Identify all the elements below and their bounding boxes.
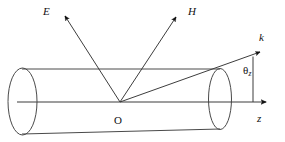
theta-symbol: θ	[243, 64, 248, 76]
h-vector-ray	[120, 17, 176, 102]
theta-angle-label: θz	[243, 65, 252, 77]
cylinder-bottom-line	[22, 129, 220, 134]
theta-subscript: z	[249, 69, 252, 78]
k-vector-label: k	[259, 32, 264, 43]
cylinder-right-face-ellipse	[209, 69, 232, 130]
wave-vector-diagram: E H k O z θz	[0, 0, 285, 142]
k-vector-ray	[120, 52, 260, 102]
z-axis-label: z	[257, 113, 261, 124]
origin-label: O	[114, 115, 122, 126]
e-vector-label: E	[43, 6, 50, 17]
h-vector-label: H	[188, 6, 196, 17]
e-vector-ray	[65, 16, 120, 102]
